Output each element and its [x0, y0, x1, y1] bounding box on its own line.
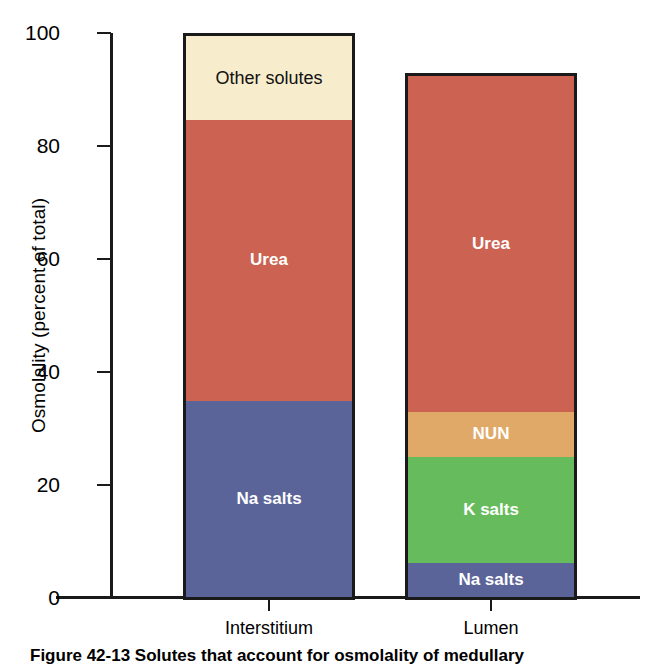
figure-caption: Figure 42-13 Solutes that account for os…	[30, 646, 655, 666]
y-tick-label: 100	[0, 22, 60, 43]
y-tick-mark	[97, 371, 111, 373]
y-tick-label: 0	[0, 587, 60, 608]
x-tick-label-interstitium: Interstitium	[169, 618, 369, 638]
bar-segment-na-salts: Na salts	[408, 563, 574, 597]
y-axis-line	[110, 33, 113, 599]
y-tick-label: 40	[0, 361, 60, 382]
bar-segment-na-salts: Na salts	[186, 401, 352, 597]
bar-segment-urea: Urea	[186, 120, 352, 401]
y-tick-mark	[97, 145, 111, 147]
bar-interstitium: Other solutesUreaNa salts	[183, 33, 355, 600]
bar-segment-nun: NUN	[408, 412, 574, 457]
bar-segment-urea: Urea	[408, 76, 574, 412]
bar-segment-k-salts: K salts	[408, 457, 574, 564]
bar-segment-other-solutes: Other solutes	[186, 36, 352, 120]
bar-lumen: UreaNUNK saltsNa salts	[405, 73, 577, 600]
x-tick-mark	[268, 598, 270, 611]
y-axis-label: Osmolality (percent of total)	[22, 33, 56, 598]
y-tick-label: 60	[0, 248, 60, 269]
y-tick-label: 20	[0, 474, 60, 495]
y-tick-mark	[97, 597, 111, 599]
y-tick-mark	[97, 32, 111, 34]
y-tick-mark	[97, 484, 111, 486]
y-tick-mark	[97, 258, 111, 260]
x-tick-label-lumen: Lumen	[391, 618, 591, 638]
x-tick-mark	[490, 598, 492, 611]
y-tick-label: 80	[0, 135, 60, 156]
